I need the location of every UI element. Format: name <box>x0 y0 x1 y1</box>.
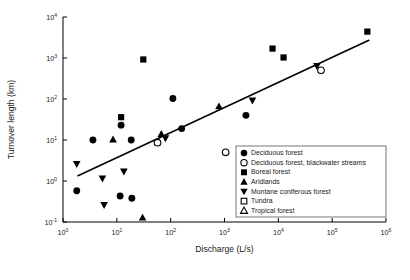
x-tick-label: 101 <box>111 227 122 237</box>
data-point-aridlands <box>215 102 223 109</box>
data-point-boreal-forest <box>140 56 146 62</box>
data-point-boreal-forest <box>280 54 286 60</box>
data-point-deciduous-forest <box>128 137 135 144</box>
data-point-deciduous-forest <box>128 195 135 202</box>
data-point-deciduous-forest <box>73 187 80 194</box>
data-point-deciduous-forest <box>242 112 249 119</box>
legend-label: Deciduous forest, blackwater streams <box>251 159 366 166</box>
data-point-aridlands <box>139 214 147 221</box>
y-tick-label: 101 <box>46 135 57 145</box>
data-point-deciduous-forest-blackwater-streams <box>318 67 325 74</box>
legend-label: Aridlands <box>251 178 280 185</box>
legend: Deciduous forestDeciduous forest, blackw… <box>236 146 386 217</box>
legend-marker-boreal-forest <box>241 169 247 175</box>
y-tick-label: 103 <box>46 53 57 63</box>
x-tick-label: 100 <box>58 227 69 237</box>
legend-label: Deciduous forest <box>251 149 303 156</box>
legend-marker-deciduous-forest-blackwater-streams <box>241 160 247 166</box>
legend-marker-deciduous-forest <box>241 150 248 157</box>
axis-titles: Discharge (L/s)Turnover length (km) <box>6 80 254 254</box>
scatter-plot: 10010110210310410510610-1100101102103104… <box>0 0 410 280</box>
data-point-deciduous-forest <box>169 95 176 102</box>
data-point-montane-coniferous-forest <box>73 161 81 168</box>
data-point-boreal-forest <box>364 29 370 35</box>
data-point-deciduous-forest-blackwater-streams <box>154 139 161 146</box>
y-axis-title: Turnover length (km) <box>6 80 16 160</box>
legend-label: Tropical forest <box>251 207 294 215</box>
x-axis-title: Discharge (L/s) <box>195 244 253 254</box>
data-point-deciduous-forest <box>118 122 125 129</box>
data-point-deciduous-forest <box>117 193 124 200</box>
data-point-aridlands <box>109 136 117 143</box>
legend-marker-tundra <box>241 198 247 204</box>
y-tick-label: 104 <box>46 12 57 22</box>
data-point-boreal-forest <box>118 114 124 120</box>
data-point-montane-coniferous-forest <box>100 202 108 209</box>
y-tick-label: 100 <box>46 176 57 186</box>
x-tick-label: 103 <box>219 227 230 237</box>
data-point-deciduous-forest <box>178 125 185 132</box>
y-tick-label: 102 <box>46 94 57 104</box>
x-tick-label: 102 <box>165 227 176 237</box>
legend-label: Boreal forest <box>251 168 290 175</box>
data-point-deciduous-forest-blackwater-streams <box>222 149 229 156</box>
data-point-montane-coniferous-forest <box>99 176 107 183</box>
x-tick-label: 106 <box>381 227 392 237</box>
data-point-deciduous-forest <box>90 137 97 144</box>
x-tick-label: 104 <box>273 227 284 237</box>
data-point-montane-coniferous-forest <box>162 135 170 142</box>
data-point-montane-coniferous-forest <box>249 98 257 105</box>
data-point-montane-coniferous-forest <box>120 169 128 176</box>
x-tick-label: 105 <box>327 227 338 237</box>
y-tick-label: 10-1 <box>44 217 57 227</box>
figure-container: 10010110210310410510610-1100101102103104… <box>0 0 410 280</box>
data-point-boreal-forest <box>269 45 275 51</box>
legend-label: Tundra <box>251 197 273 204</box>
legend-label: Montane coniferous forest <box>251 188 331 195</box>
